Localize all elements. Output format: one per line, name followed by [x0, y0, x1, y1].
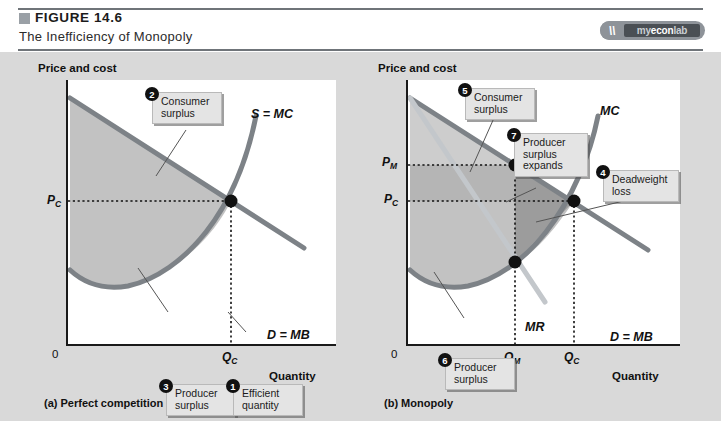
panel-monopoly: Price and cost — [360, 52, 707, 421]
panel-a-y-axis-title: Price and cost — [38, 62, 117, 74]
panel-a-callout-consumer-surplus: Consumer surplus — [152, 92, 222, 124]
panel-a-origin-label: 0 — [52, 348, 58, 360]
panel-b-y-axis-title: Price and cost — [378, 62, 457, 74]
panel-b-competitive-price-tick-label: PC — [384, 192, 398, 208]
panel-b-competitive-quantity-tick-label: QC — [564, 350, 579, 366]
panel-a-quantity-tick-label: QC — [222, 350, 237, 366]
figure-marker-square — [19, 13, 30, 24]
region-producer-surplus — [70, 201, 231, 287]
panel-b-badge-6: 6 — [438, 353, 452, 367]
panel-a-badge-2: 2 — [145, 87, 159, 101]
panel-b-demand-curve-label: D = MB — [610, 330, 653, 344]
monopoly-output-point — [509, 256, 522, 269]
panel-b-callout-consumer-surplus: Consumer surplus — [465, 88, 535, 120]
equilibrium-point — [225, 195, 238, 208]
panel-b-plot-area — [406, 80, 680, 346]
myeconlab-wordmark: myeconlab — [624, 24, 700, 37]
header-rule-bottom — [18, 49, 703, 51]
myeconlab-word-econ: econ — [651, 25, 674, 36]
panel-a-x-axis-title: Quantity — [269, 370, 316, 382]
panel-a-badge-1: 1 — [226, 379, 240, 393]
panel-a-badge-3: 3 — [159, 379, 173, 393]
myeconlab-logo[interactable]: \\ myeconlab — [600, 21, 705, 40]
panel-b-badge-5: 5 — [458, 83, 472, 97]
panel-a-supply-curve-label: S = MC — [251, 107, 293, 121]
panel-b-badge-7: 7 — [507, 128, 521, 142]
figure-title: The Inefficiency of Monopoly — [19, 29, 193, 44]
panel-a-caption: (a) Perfect competition — [44, 397, 163, 409]
panel-b-callout-producer-surplus-expands: Producer surplus expands — [514, 133, 588, 177]
competitive-equilibrium-point — [568, 195, 581, 208]
panel-a-demand-curve-label: D = MB — [267, 328, 310, 342]
panel-a-callout-producer-surplus: Producer surplus — [166, 384, 236, 416]
panel-a-price-tick-label: PC — [47, 193, 61, 209]
region-producer-surplus-expands — [410, 165, 515, 201]
panel-perfect-competition: Price and cost — [14, 52, 354, 421]
figure-number: FIGURE 14.6 — [35, 10, 123, 25]
panel-a-callout-efficient-quantity: Efficient quantity — [233, 384, 303, 416]
myeconlab-mark-icon: \\ — [600, 21, 624, 40]
figure-body: Price and cost — [0, 52, 721, 421]
panel-b-x-axis-title: Quantity — [612, 370, 659, 382]
region-deadweight-loss — [515, 165, 574, 262]
figure-header: FIGURE 14.6 The Inefficiency of Monopoly… — [0, 0, 721, 52]
myeconlab-word-my: my — [637, 25, 651, 36]
panel-b-marginal-cost-curve-label: MC — [600, 104, 619, 118]
panel-b-chart-svg — [408, 80, 680, 344]
myeconlab-word-lab: lab — [673, 25, 687, 36]
panel-b-badge-4: 4 — [596, 165, 610, 179]
panel-b-marginal-revenue-curve-label: MR — [525, 320, 544, 334]
panel-b-callout-deadweight-loss: Deadweight loss — [603, 170, 679, 202]
panel-b-origin-label: 0 — [391, 348, 397, 360]
panel-b-callout-producer-surplus: Producer surplus — [445, 358, 515, 390]
panel-b-caption: (b) Monopoly — [384, 397, 453, 409]
panel-b-monopoly-price-tick-label: PM — [382, 155, 397, 171]
